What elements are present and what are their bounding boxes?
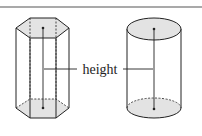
height-label: height bbox=[83, 62, 118, 77]
hexagonal-prism bbox=[16, 18, 69, 118]
cylinder bbox=[127, 18, 181, 118]
diagram-canvas: height bbox=[0, 0, 202, 136]
